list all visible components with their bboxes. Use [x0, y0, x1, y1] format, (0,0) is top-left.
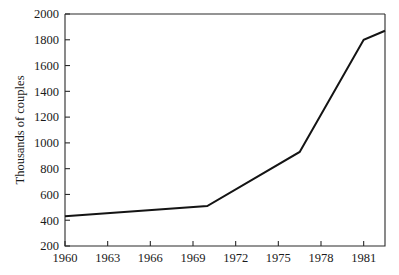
chart-canvas: Thousands of couples 2004006008001000120… [0, 0, 399, 275]
y-tick-label: 1800 [34, 33, 59, 47]
y-tick-label: 1000 [34, 136, 59, 150]
y-tick-label: 1600 [34, 59, 59, 73]
y-axis-title: Thousands of couples [13, 75, 27, 184]
x-tick-label: 1960 [53, 251, 78, 265]
x-tick-label: 1963 [95, 251, 120, 265]
y-tick-label: 2000 [34, 7, 59, 21]
x-tick-label: 1975 [266, 251, 291, 265]
y-tick-label: 600 [40, 188, 59, 202]
y-tick-label: 1200 [34, 110, 59, 124]
y-axis-title-text: Thousands of couples [13, 75, 27, 184]
x-tick-label: 1969 [181, 251, 206, 265]
x-tick-label: 1972 [223, 251, 248, 265]
x-tick-label: 1966 [138, 251, 163, 265]
x-tick-label: 1981 [351, 251, 376, 265]
x-tick-label: 1978 [309, 251, 334, 265]
chart-background [0, 0, 399, 275]
line-chart: Thousands of couples 2004006008001000120… [0, 0, 399, 275]
y-tick-label: 400 [40, 214, 59, 228]
y-tick-label: 800 [40, 162, 59, 176]
y-tick-label: 1400 [34, 85, 59, 99]
